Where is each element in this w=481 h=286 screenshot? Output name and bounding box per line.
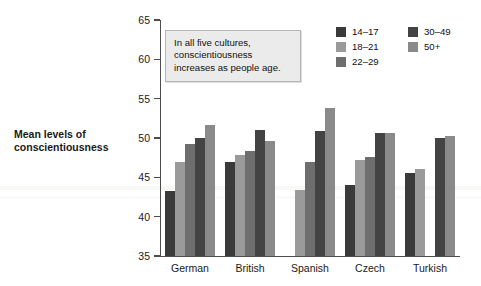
y-tick-mark [154,98,160,99]
y-tick-mark [154,255,160,256]
annotation-callout: In all five cultures, conscientiousness … [165,30,301,82]
y-tick-mark [154,59,160,60]
legend-swatch-icon [408,27,418,37]
legend-label: 50+ [424,41,440,53]
y-tick-mark [154,19,160,20]
y-tick-mark [154,177,160,178]
bar [325,108,335,256]
bar [445,136,455,256]
y-tick-label: 50 [128,133,150,143]
annotation-line-2: conscientiousness [174,49,293,61]
x-axis-label: British [220,262,280,274]
bar [175,162,185,256]
x-axis-label: Czech [340,262,400,274]
annotation-line-1: In all five cultures, [174,37,293,49]
legend-label: 14–17 [352,26,379,38]
y-axis-title-line-2: conscientiousness [14,141,132,154]
bar [295,190,305,256]
x-axis-label: German [160,262,220,274]
bar [265,141,275,256]
bar [375,133,385,257]
y-axis-title-line-1: Mean levels of [14,128,132,141]
y-tick-label: 65 [128,15,150,25]
bar [195,138,205,256]
legend-swatch-icon [336,57,346,67]
y-tick-mark [154,137,160,138]
bar [255,130,265,256]
bar [315,131,325,256]
y-tick-label: 55 [128,94,150,104]
bar-chart: Mean levels of conscientiousness 3540455… [0,0,481,286]
legend-swatch-icon [336,27,346,37]
bar [225,162,235,256]
x-axis-label: Turkish [400,262,460,274]
y-tick-mark [154,216,160,217]
legend: 14–1718–2122–2930–4950+ [336,26,476,74]
bar [245,151,255,256]
bar [355,160,365,256]
bar [165,191,175,256]
annotation-line-3: increases as people age. [174,62,293,74]
bar [385,133,395,257]
y-tick-label: 35 [128,251,150,261]
bar [185,144,195,256]
y-tick-label: 40 [128,212,150,222]
y-tick-label: 45 [128,172,150,182]
bar [345,185,355,256]
x-axis-label: Spanish [280,262,340,274]
bar [435,138,445,256]
y-tick-label: 60 [128,54,150,64]
legend-label: 18–21 [352,41,379,53]
bar [205,125,215,256]
legend-label: 30–49 [424,26,451,38]
bar [405,173,415,256]
x-axis-line [160,256,460,257]
legend-label: 22–29 [352,56,379,68]
bar [365,157,375,256]
legend-swatch-icon [408,42,418,52]
y-axis-title: Mean levels of conscientiousness [14,128,132,154]
bar [305,162,315,256]
y-axis-ticks: 35404550556065 [124,0,150,286]
bar [235,155,245,256]
legend-swatch-icon [336,42,346,52]
bar [415,169,425,256]
